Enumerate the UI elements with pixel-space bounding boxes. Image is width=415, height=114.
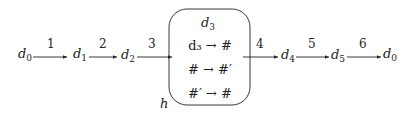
node-d1: d1 <box>73 46 87 63</box>
box-label-h: h <box>160 96 168 111</box>
box-rule-2: # → #′ <box>169 62 251 77</box>
node-d0: d0 <box>18 46 32 63</box>
node-d5: d5 <box>331 47 345 64</box>
box-rule-3: #′ → # <box>169 86 251 101</box>
edge-label-2: 2 <box>99 37 107 51</box>
box-rule-1: d₃ → # <box>169 38 251 53</box>
edge-label-4: 4 <box>256 37 264 51</box>
edge-label-1: 1 <box>47 37 55 51</box>
node-d2: d2 <box>121 47 135 64</box>
edge-label-5: 5 <box>308 37 316 51</box>
node-d0-end: d0 <box>383 46 397 63</box>
box-title: d3 <box>201 15 215 32</box>
edge-label-3: 3 <box>148 37 156 51</box>
node-d4: d4 <box>281 47 295 64</box>
edge-label-6: 6 <box>359 37 367 51</box>
